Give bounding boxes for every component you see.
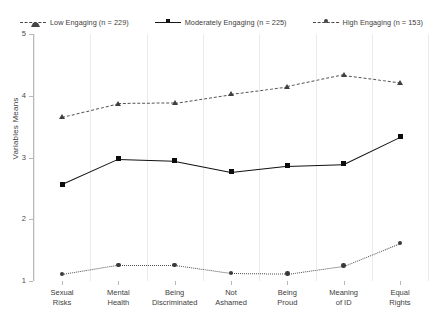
y-tick-mark — [29, 96, 33, 97]
legend-label-low-engaging: Low Engaging (n = 229) — [50, 18, 129, 27]
x-tick-label-line2: Rights — [365, 298, 435, 308]
gridline — [90, 34, 91, 281]
y-axis-line — [33, 34, 34, 281]
x-tick-mark — [400, 281, 401, 285]
line-chart: Low Engaging (n = 229) Moderately Engagi… — [0, 0, 443, 322]
x-tick-label-line1: Equal — [365, 288, 435, 298]
x-tick-mark — [231, 281, 232, 285]
gridline — [428, 34, 429, 281]
legend-key-high-engaging-icon — [313, 18, 339, 27]
y-tick-mark — [29, 158, 33, 159]
gridline — [147, 34, 148, 281]
y-tick-label: 5 — [0, 29, 26, 38]
y-tick-label: 2 — [0, 214, 26, 223]
gridline — [372, 34, 373, 281]
x-tick-mark — [287, 281, 288, 285]
plot-area — [33, 34, 429, 281]
legend-item-high-engaging[interactable]: High Engaging (n = 153) — [313, 18, 423, 27]
gridline — [203, 34, 204, 281]
x-tick-mark — [62, 281, 63, 285]
y-tick-mark — [29, 34, 33, 35]
y-axis-title: Variables Means — [11, 59, 20, 199]
y-tick-mark — [29, 281, 33, 282]
y-tick-label: 1 — [0, 276, 26, 285]
x-tick-mark — [175, 281, 176, 285]
legend-key-moderately-engaging-icon — [155, 18, 181, 27]
chart-legend: Low Engaging (n = 229) Moderately Engagi… — [0, 14, 443, 30]
x-tick-label: EqualRights — [365, 288, 435, 307]
legend-key-low-engaging-icon — [20, 18, 46, 27]
legend-item-moderately-engaging[interactable]: Moderately Engaging (n = 225) — [155, 18, 287, 27]
y-tick-mark — [29, 219, 33, 220]
legend-item-low-engaging[interactable]: Low Engaging (n = 229) — [20, 18, 129, 27]
x-tick-mark — [118, 281, 119, 285]
gridline — [259, 34, 260, 281]
gridline — [316, 34, 317, 281]
x-tick-mark — [344, 281, 345, 285]
legend-label-moderately-engaging: Moderately Engaging (n = 225) — [185, 18, 287, 27]
legend-label-high-engaging: High Engaging (n = 153) — [343, 18, 423, 27]
